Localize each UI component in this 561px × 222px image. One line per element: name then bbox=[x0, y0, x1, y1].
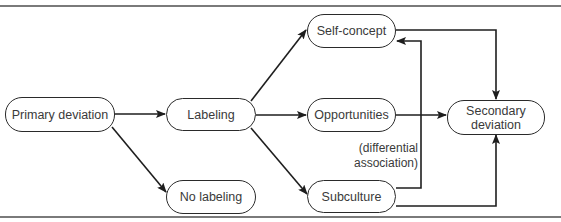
node-label: Self-concept bbox=[317, 24, 386, 38]
edge-labeling-to-subculture bbox=[251, 128, 307, 194]
node-no-labeling: No labeling bbox=[166, 180, 256, 214]
node-label: Opportunities bbox=[314, 108, 388, 122]
node-self-concept: Self-concept bbox=[307, 14, 396, 48]
node-label: Subculture bbox=[322, 190, 382, 204]
node-label: Secondary deviation bbox=[466, 104, 526, 132]
edge-labeling-to-selfconcept bbox=[251, 30, 306, 101]
edge-primary-to-nolabeling bbox=[112, 127, 166, 192]
node-label: No labeling bbox=[180, 190, 243, 204]
node-labeling: Labeling bbox=[166, 98, 256, 131]
node-opportunities: Opportunities bbox=[307, 98, 396, 132]
annotation-differential-association: (differential association) bbox=[340, 141, 418, 171]
node-label: Labeling bbox=[187, 108, 234, 122]
node-secondary-deviation: Secondary deviation bbox=[447, 100, 545, 135]
node-label: Primary deviation bbox=[12, 108, 109, 122]
node-primary-deviation: Primary deviation bbox=[5, 97, 115, 132]
node-subculture: Subculture bbox=[307, 180, 396, 213]
